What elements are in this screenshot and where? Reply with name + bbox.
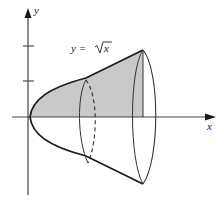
equation-radicand: x: [103, 42, 109, 54]
equation-prefix: y =: [70, 42, 86, 54]
y-axis-arrow-icon: [25, 8, 32, 18]
y-axis-label: y: [33, 4, 39, 16]
x-axis-label: x: [206, 120, 212, 132]
shaded-region: [30, 50, 143, 117]
equation-label: y = x: [70, 42, 112, 54]
paraboloid-diagram: y x y = x: [0, 0, 224, 205]
parabola-lower-curve: [30, 117, 143, 184]
